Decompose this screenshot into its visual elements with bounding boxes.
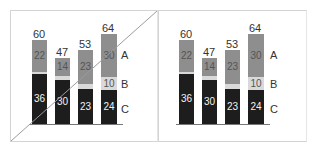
bar-total: 53 xyxy=(70,38,100,50)
x-axis-baseline xyxy=(176,124,270,125)
x-axis-baseline xyxy=(29,124,123,125)
stacked-bar: 14 30 xyxy=(202,58,217,124)
segment-b: 10 xyxy=(248,77,264,90)
bar-total: 64 xyxy=(240,22,270,34)
segment-c: 23 xyxy=(78,89,93,124)
stacked-bar: 14 30 xyxy=(55,58,70,124)
bar-total: 53 xyxy=(217,38,247,50)
stacked-bar: 23 23 xyxy=(78,50,93,124)
segment-a: 23 xyxy=(78,50,93,84)
bar-total: 60 xyxy=(171,28,201,40)
chart-panel-right: 60 22 36 47 14 30 53 23 23 64 30 10 24 A… xyxy=(158,10,307,142)
legend-label-b: B xyxy=(270,78,277,90)
stacked-bar: 30 10 24 xyxy=(101,34,117,124)
segment-a: 14 xyxy=(55,58,70,76)
legend-label-c: C xyxy=(121,103,129,115)
segment-c: 24 xyxy=(248,90,264,124)
bar-total: 60 xyxy=(24,28,54,40)
segment-b: 10 xyxy=(101,77,117,90)
segment-a: 14 xyxy=(202,58,217,76)
segment-a: 23 xyxy=(225,50,240,84)
segment-c: 23 xyxy=(225,89,240,124)
segment-a: 30 xyxy=(248,34,264,77)
stacked-bar: 22 36 xyxy=(179,40,194,124)
segment-c: 24 xyxy=(101,90,117,124)
segment-a: 30 xyxy=(101,34,117,77)
bar-total: 64 xyxy=(93,22,123,34)
legend-label-b: B xyxy=(121,78,128,90)
segment-c: 36 xyxy=(32,74,47,124)
chart-panel-left: 60 22 36 47 14 30 53 23 23 64 30 10 24 A… xyxy=(10,10,158,142)
stacked-bar: 23 23 xyxy=(225,50,240,124)
segment-c: 30 xyxy=(55,80,70,124)
segment-c: 30 xyxy=(202,80,217,124)
stacked-bar: 22 36 xyxy=(32,40,47,124)
segment-a: 22 xyxy=(179,40,194,72)
legend-label-c: C xyxy=(270,103,278,115)
legend-label-a: A xyxy=(121,49,128,61)
segment-a: 22 xyxy=(32,40,47,72)
segment-c: 36 xyxy=(179,74,194,124)
stacked-bar: 30 10 24 xyxy=(248,34,264,124)
legend-label-a: A xyxy=(270,49,277,61)
